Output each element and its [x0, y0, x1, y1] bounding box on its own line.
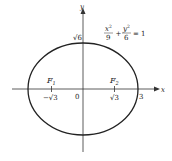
origin-label: 0 — [75, 93, 79, 101]
eq-x-den: 9 — [106, 34, 110, 42]
x-intercept-label: 3 — [139, 93, 143, 101]
eq-y-num: y2 — [122, 24, 130, 33]
ellipse-diagram: y x 0 √6 3 F1 F2 −√3 √3 x2 9 + y2 6 = 1 — [0, 0, 172, 161]
eq-equals: = 1 — [133, 30, 146, 38]
focus1-name: F1 — [46, 76, 56, 86]
eq-plus: + — [116, 30, 122, 38]
ellipse-equation: x2 9 + y2 6 = 1 — [104, 24, 146, 42]
eq-y-den: 6 — [124, 34, 129, 42]
x-axis-label: x — [161, 86, 165, 94]
focus2-name: F2 — [109, 76, 119, 86]
y-intercept-label: √6 — [73, 34, 82, 42]
y-axis-label: y — [79, 3, 85, 11]
focus2-x-label: √3 — [110, 94, 119, 102]
x-axis-arrow-icon — [154, 87, 160, 92]
focus1-x-label: −√3 — [43, 94, 58, 102]
eq-x-num: x2 — [105, 24, 112, 33]
